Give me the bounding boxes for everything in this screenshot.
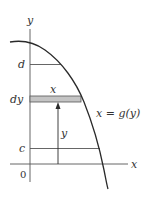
arrow-height-label: y [60,127,68,140]
lower-bound-label: c [19,142,25,155]
y-axis-label: y [26,14,34,27]
x-axis-label: x [131,158,138,171]
region-diagram: y x 0 d c dy x y x = g(y) [0,0,151,202]
origin-label: 0 [20,169,26,180]
strip-width-label: x [50,83,57,96]
curve-equation-label: x = g(y) [96,107,140,120]
upper-bound-label: d [18,58,25,71]
strip-thickness-label: dy [10,93,24,106]
arrow-head-icon [56,102,61,109]
horizontal-strip-dy [30,96,81,102]
